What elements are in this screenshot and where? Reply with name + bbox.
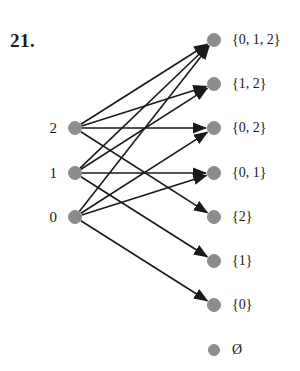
edges-layer bbox=[79, 44, 209, 300]
graph-edge bbox=[80, 46, 208, 169]
node-label-set-s1: {1} bbox=[232, 253, 252, 269]
graph-node-right-s012[interactable] bbox=[208, 34, 221, 47]
graph-node-left-e2[interactable] bbox=[69, 122, 82, 135]
graph-node-right-s01[interactable] bbox=[208, 167, 221, 180]
node-label-set-s02: {0, 2} bbox=[232, 120, 266, 136]
node-label-element-e2: 2 bbox=[37, 120, 57, 137]
node-label-set-s2: {2} bbox=[232, 209, 252, 225]
node-label-set-sempty: Ø bbox=[232, 342, 242, 358]
figure-canvas: 21. 210 {0, 1, 2}{1, 2}{0, 2}{0, 1}{2}{1… bbox=[0, 0, 300, 371]
node-label-set-s12: {1, 2} bbox=[232, 76, 266, 92]
problem-number: 21. bbox=[10, 30, 35, 52]
graph-node-left-e0[interactable] bbox=[69, 211, 82, 224]
graph-node-right-s2[interactable] bbox=[208, 211, 221, 224]
bipartite-graph bbox=[0, 0, 300, 371]
graph-edge bbox=[81, 44, 207, 124]
node-label-element-e1: 1 bbox=[37, 165, 57, 182]
graph-node-right-s12[interactable] bbox=[208, 78, 221, 91]
node-label-set-s01: {0, 1} bbox=[232, 165, 266, 181]
graph-node-right-s02[interactable] bbox=[208, 122, 221, 135]
graph-edge bbox=[81, 177, 207, 257]
graph-node-right-s0[interactable] bbox=[208, 299, 221, 312]
node-label-set-s012: {0, 1, 2} bbox=[232, 32, 280, 48]
graph-edge bbox=[79, 46, 209, 211]
graph-node-right-s1[interactable] bbox=[208, 255, 221, 268]
graph-node-left-e1[interactable] bbox=[69, 167, 82, 180]
graph-edge bbox=[81, 221, 207, 301]
node-label-element-e0: 0 bbox=[37, 209, 57, 226]
node-label-set-s0: {0} bbox=[232, 297, 252, 313]
graph-node-right-sempty[interactable] bbox=[209, 345, 220, 356]
graph-edge bbox=[82, 175, 207, 214]
